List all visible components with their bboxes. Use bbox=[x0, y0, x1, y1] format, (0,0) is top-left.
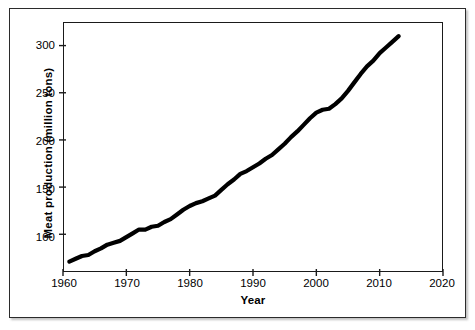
chart-page: 300 250 200 150 100 1960 1970 1980 1990 … bbox=[0, 0, 475, 330]
chart-svg-layer bbox=[0, 0, 475, 330]
data-series-line bbox=[69, 36, 398, 261]
